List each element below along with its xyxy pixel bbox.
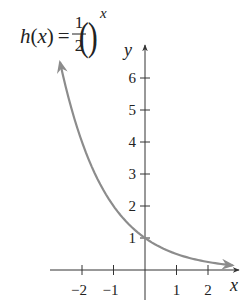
- x-tick-label: 2: [204, 282, 212, 298]
- y-tick-label: 2: [129, 198, 137, 214]
- y-tick-label: 6: [129, 70, 137, 86]
- title-numerator: 1: [75, 13, 84, 32]
- title-lparen: (: [31, 24, 38, 48]
- title-rparen: ): [47, 24, 54, 48]
- x-tick-label: 1: [173, 282, 181, 298]
- title-exponent: x: [99, 5, 107, 21]
- x-tick-label: −1: [103, 282, 119, 298]
- y-tick-label: 4: [129, 134, 137, 150]
- svg-text:h(x)=: h(x)=: [20, 24, 70, 48]
- y-ticks: 123456: [129, 70, 151, 246]
- y-tick-label: 1: [129, 230, 137, 246]
- y-tick-label: 5: [129, 102, 137, 118]
- title-equals: =: [58, 24, 70, 48]
- exponential-decay-chart: h(x)= ( 1 2 ) x −2−112 123456 x y: [0, 0, 247, 303]
- function-curve: [60, 62, 233, 265]
- title-denominator: 2: [75, 36, 84, 55]
- x-axis-label: x: [229, 275, 238, 295]
- y-tick-label: 3: [129, 166, 137, 182]
- y-axis-label: y: [122, 40, 132, 60]
- title-func: h: [20, 24, 31, 48]
- x-tick-label: −2: [71, 282, 87, 298]
- title-big-rparen: ): [88, 14, 98, 59]
- chart-title: h(x)= ( 1 2 ) x: [20, 5, 107, 59]
